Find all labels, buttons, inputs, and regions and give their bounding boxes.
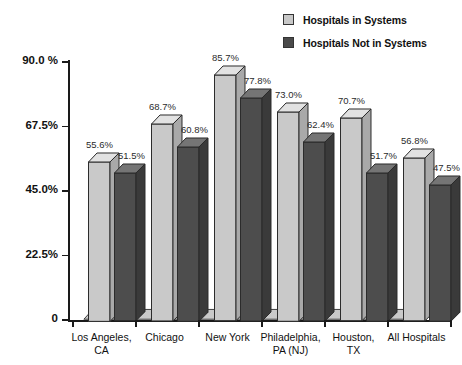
bar-value-label-2-in-systems: 85.7% (212, 52, 239, 63)
bar-value-label-0-in-systems: 55.6% (86, 139, 113, 150)
x-axis-label-3: Philadelphia, PA (NJ) (255, 331, 326, 357)
bar-value-label-4-not-in-systems: 51.7% (370, 150, 397, 161)
bar-value-label-1-in-systems: 68.7% (149, 101, 176, 112)
bar-value-label-5-not-in-systems: 47.5% (433, 162, 460, 173)
bar-3d-shape (114, 163, 147, 322)
bar-5-hospitals-not-in-systems[interactable] (429, 175, 460, 320)
x-axis-label-0: Los Angeles, CA (66, 331, 137, 357)
bar-value-label-5-in-systems: 56.8% (401, 135, 428, 146)
x-axis-label-5: All Hospitals (381, 331, 452, 344)
bar-value-label-1-not-in-systems: 60.8% (181, 124, 208, 135)
x-axis-tick (72, 320, 74, 327)
x-axis-label-1: Chicago (129, 331, 200, 344)
bar-value-label-3-not-in-systems: 62.4% (307, 119, 334, 130)
x-axis-tick (387, 320, 389, 327)
x-axis-label-2: New York (192, 331, 263, 344)
bar-3-hospitals-not-in-systems[interactable] (303, 132, 334, 320)
x-axis-tick (135, 320, 137, 327)
bar-3d-shape (303, 132, 336, 322)
bar-value-label-0-not-in-systems: 51.5% (118, 150, 145, 161)
bar-3d-shape (429, 175, 462, 322)
bar-1-hospitals-not-in-systems[interactable] (177, 137, 208, 320)
bar-3d-shape (177, 137, 210, 322)
x-axis-tick (450, 320, 452, 327)
x-axis-tick (198, 320, 200, 327)
bar-3d-shape (240, 88, 273, 322)
bar-value-label-3-in-systems: 73.0% (275, 89, 302, 100)
x-axis-label-4: Houston, TX (318, 331, 389, 357)
bar-2-hospitals-not-in-systems[interactable] (240, 88, 271, 320)
x-axis-tick (324, 320, 326, 327)
bar-value-label-4-in-systems: 70.7% (338, 95, 365, 106)
x-axis-tick (261, 320, 263, 327)
bar-0-hospitals-not-in-systems[interactable] (114, 163, 145, 320)
bar-4-hospitals-not-in-systems[interactable] (366, 163, 397, 320)
bar-3d-shape (366, 163, 399, 322)
bar-value-label-2-not-in-systems: 77.8% (244, 75, 271, 86)
